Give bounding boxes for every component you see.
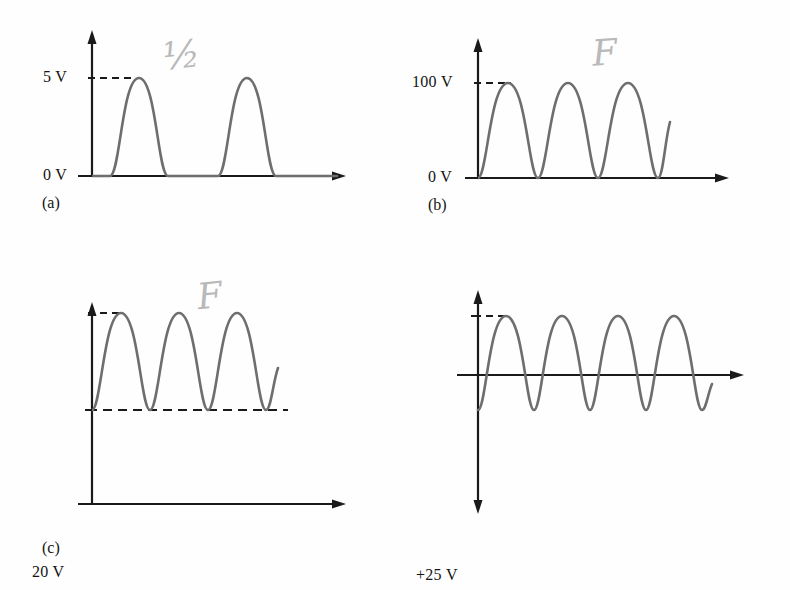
panel-b-y-axis-arrowhead (474, 38, 483, 52)
panel-a-label-baseline: 0 V (43, 166, 67, 184)
panel-c-handwritten-annotation: F (195, 274, 224, 317)
panel-a: 5 V 0 V ½ (a) (0, 0, 395, 295)
panel-b-x-axis-arrowhead (715, 174, 729, 183)
panel-d: +25 V 0 V −15 V (d) (395, 260, 790, 590)
panel-d-y-axis-arrowhead-up (474, 290, 483, 304)
panel-c-waveform (92, 313, 278, 410)
panel-d-waveform (478, 316, 712, 410)
panel-b-label-peak: 100 V (412, 73, 453, 91)
figure-page: 5 V 0 V ½ (a) 100 V 0 V F (b) (0, 0, 790, 590)
panel-c-label-peak: 20 V (32, 563, 64, 581)
panel-c-x-axis-arrowhead (332, 500, 346, 509)
panel-c-caption: (c) (42, 539, 60, 557)
panel-b-handwritten-annotation: F (591, 31, 619, 74)
panel-a-waveform (92, 78, 337, 176)
panel-b-waveform (478, 83, 670, 178)
panel-b: 100 V 0 V F (b) (395, 0, 790, 295)
panel-a-y-axis-arrowhead (88, 30, 97, 44)
panel-b-label-baseline: 0 V (428, 168, 452, 186)
panel-d-y-axis-arrowhead-down (474, 500, 483, 514)
panel-d-plot (395, 260, 790, 590)
panel-d-label-peak: +25 V (416, 566, 458, 584)
panel-a-label-peak: 5 V (43, 68, 67, 86)
panel-c: 20 V 10 V 0 V F (c) (0, 260, 395, 590)
panel-b-caption: (b) (428, 196, 447, 214)
panel-a-handwritten-annotation: ½ (161, 31, 201, 79)
panel-d-x-axis-arrowhead (730, 371, 744, 380)
panel-a-caption: (a) (42, 194, 60, 212)
